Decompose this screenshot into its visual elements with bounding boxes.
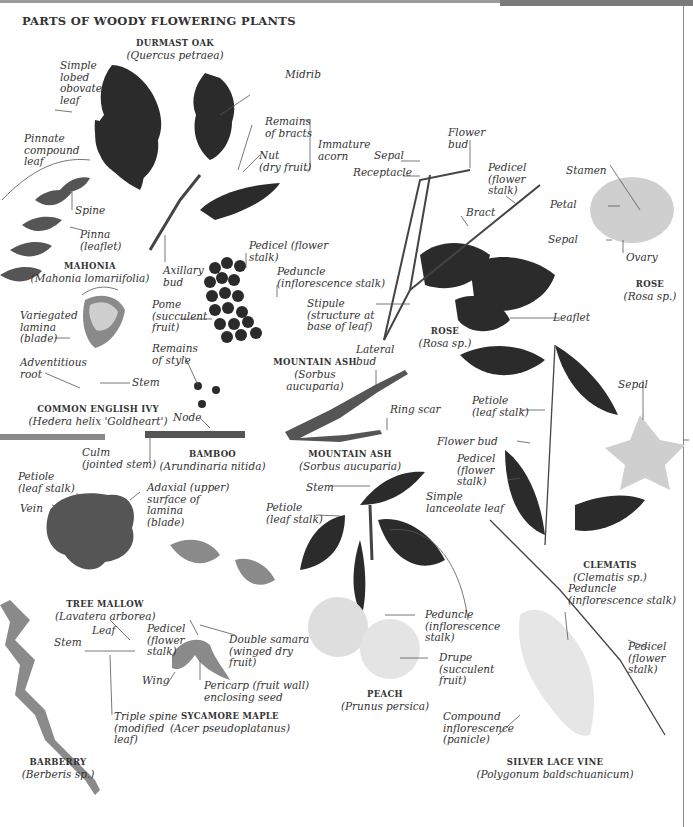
clematis-flower-icon [605, 415, 685, 490]
specimen-name: MAHONIA [20, 260, 160, 272]
label-clematis-petiole: Petiole (leaf stalk) [472, 395, 529, 418]
caption-common-english-ivy: COMMON ENGLISH IVY (Hedera helix 'Goldhe… [18, 403, 178, 427]
label-ash-pedicel: Pedicel (flower stalk) [249, 240, 328, 263]
label-rose-flower-petal: Petal [550, 199, 577, 211]
specimen-name: DURMAST OAK [110, 37, 240, 49]
specimen-name: BARBERRY [18, 756, 98, 768]
clematis-leaf3-icon [505, 450, 545, 535]
label-mallow-vein: Vein [20, 503, 43, 515]
mahonia-leaflet3-icon [10, 242, 52, 256]
label-bamboo-culm: Culm (jointed stem) [82, 447, 156, 470]
label-peach-petiole: Petiole (leaf stalk) [266, 502, 323, 525]
caption-rose-branch: ROSE (Rosa sp.) [405, 325, 485, 349]
caption-silver-lace-vine: SILVER LACE VINE (Polygonum baldschuanic… [455, 756, 655, 780]
specimen-scientific-name: (Rosa sp.) [610, 290, 690, 302]
label-oak-midrib: Midrib [285, 69, 321, 81]
label-mahonia-spine: Spine [75, 205, 105, 217]
label-lace-compound-inflorescence: Compound inflorescence (panicle) [443, 711, 514, 746]
specimen-scientific-name: (Quercus petraea) [110, 49, 240, 61]
label-rose-sepal: Sepal [374, 150, 404, 162]
specimen-scientific-name: (Sorbus aucuparia) [265, 368, 365, 392]
specimen-scientific-name: (Prunus persica) [330, 700, 440, 712]
specimen-name: MOUNTAIN ASH [265, 356, 365, 368]
specimen-name: COMMON ENGLISH IVY [18, 403, 178, 415]
label-rose-bract: Bract [466, 207, 495, 219]
label-rose-receptacle: Receptacle [353, 167, 412, 179]
label-barberry-leaf: Leaf [92, 625, 115, 637]
caption-durmast-oak: DURMAST OAK (Quercus petraea) [110, 37, 240, 61]
specimen-scientific-name: (Berberis sp.) [18, 768, 98, 780]
label-barberry-stem: Stem [54, 637, 82, 649]
label-lace-pedicel: Pedicel (flower stalk) [628, 641, 666, 676]
clematis-leaf2-icon [555, 345, 618, 415]
label-peach-peduncle: Peduncle (inflorescence stalk) [425, 609, 500, 644]
specimen-name: ROSE [610, 278, 690, 290]
clematis-leaf-icon [460, 346, 545, 375]
specimen-name: SYCAMORE MAPLE [170, 710, 290, 722]
label-ash-remains-of-style: Remains of style [152, 343, 198, 366]
peach-fruit2-icon [360, 619, 420, 679]
specimen-scientific-name: (Lavatera arborea) [55, 610, 155, 622]
silver-lace-panicle-icon [519, 610, 594, 736]
specimen-name: TREE MALLOW [55, 598, 155, 610]
bamboo-left-stalk-icon [0, 434, 105, 440]
label-ash-pome: Pome (succulent fruit) [152, 299, 207, 334]
specimen-scientific-name: (Acer pseudoplatanus) [170, 722, 290, 734]
label-mallow-adaxial-surface: Adaxial (upper) surface of lamina (blade… [147, 482, 229, 528]
caption-barberry: BARBERRY (Berberis sp.) [18, 756, 98, 780]
label-rose-stipule: Stipule (structure at base of leaf) [307, 298, 374, 333]
label-oak-immature-acorn: Immature acorn [318, 139, 371, 162]
oak-leaf-right-icon [193, 73, 234, 160]
caption-peach: PEACH (Prunus persica) [330, 688, 440, 712]
label-clematis-pedicel: Pedicel (flower stalk) [457, 453, 495, 488]
sycamore-samara2-icon [235, 559, 275, 585]
label-mahonia-pinna: Pinna (leaflet) [80, 229, 121, 252]
label-ivy-adventitious-root: Adventitious root [20, 357, 87, 380]
label-rose-flower-bud: Flower bud [448, 127, 485, 150]
label-clematis-sepal: Sepal [618, 379, 648, 391]
label-peach-stem: Stem [306, 482, 334, 494]
label-peach-simple-lanceolate-leaf: Simple lanceolate leaf [426, 491, 504, 514]
caption-bamboo: BAMBOO (Arundinaria nitida) [155, 448, 270, 472]
caption-clematis: CLEMATIS (Clematis sp.) [555, 559, 665, 583]
specimen-name: CLEMATIS [555, 559, 665, 571]
label-clematis-flower-bud: Flower bud [437, 436, 498, 448]
specimen-name: SILVER LACE VINE [455, 756, 655, 768]
label-oak-axillary-bud: Axillary bud [163, 265, 204, 288]
caption-mahonia: MAHONIA (Mahonia lomariifolia) [20, 260, 160, 284]
specimen-scientific-name: (Sorbus aucuparia) [285, 460, 415, 472]
caption-mountain-ash-fruit: MOUNTAIN ASH (Sorbus aucuparia) [265, 356, 365, 392]
label-rose-pedicel: Pedicel (flower stalk) [488, 162, 526, 197]
label-maple-pedicel: Pedicel (flower stalk) [147, 623, 185, 658]
mahonia-leaflet-icon [35, 190, 72, 205]
label-ivy-stem: Stem [132, 377, 160, 389]
label-lace-peduncle: Peduncle (inflorescence stalk) [568, 583, 676, 606]
label-maple-double-samara: Double samara (winged dry fruit) [229, 634, 309, 669]
peach-leaf2-icon [360, 472, 425, 505]
label-maple-wing: Wing [142, 675, 169, 687]
label-ivy-variegated-lamina: Variegated lamina (blade) [20, 310, 78, 345]
clematis-leaf4-icon [575, 495, 645, 531]
label-rose-leaflet: Leaflet [553, 312, 590, 324]
specimen-scientific-name: (Hedera helix 'Goldheart') [18, 415, 178, 427]
label-rose-flower-sepal: Sepal [548, 234, 578, 246]
label-ash-peduncle: Peduncle (inflorescence stalk) [277, 266, 385, 289]
page-title: PARTS OF WOODY FLOWERING PLANTS [22, 14, 296, 28]
bamboo-culm-icon [145, 431, 245, 438]
label-peach-drupe: Drupe (succulent fruit) [439, 652, 494, 687]
specimen-scientific-name: (Arundinaria nitida) [155, 460, 270, 472]
mahonia-top-icon [60, 177, 90, 191]
label-oak-remains-of-bracts: Remains of bracts [265, 116, 312, 139]
tree-mallow-leaf-icon [46, 493, 133, 569]
peach-leaf3-icon [378, 519, 445, 566]
caption-tree-mallow: TREE MALLOW (Lavatera arborea) [55, 598, 155, 622]
label-mahonia-pinnate-compound-leaf: Pinnate compound leaf [24, 133, 79, 168]
specimen-name: ROSE [405, 325, 485, 337]
caption-sycamore-maple: SYCAMORE MAPLE (Acer pseudoplatanus) [170, 710, 290, 734]
specimen-scientific-name: (Rosa sp.) [405, 337, 485, 349]
specimen-scientific-name: (Mahonia lomariifolia) [20, 272, 160, 284]
label-barberry-triple-spine: Triple spine (modified leaf) [114, 711, 177, 746]
label-ash-twig-ring-scar: Ring scar [390, 404, 441, 416]
peach-fruit-icon [308, 597, 368, 657]
label-oak-simple-lobed-leaf: Simple lobed obovate leaf [60, 60, 102, 106]
